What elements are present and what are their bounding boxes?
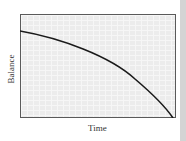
x-axis-label: Time — [88, 123, 107, 133]
balance-curve — [20, 14, 176, 118]
y-axis-label: Balance — [6, 47, 16, 91]
page-edge-strip — [180, 0, 186, 141]
